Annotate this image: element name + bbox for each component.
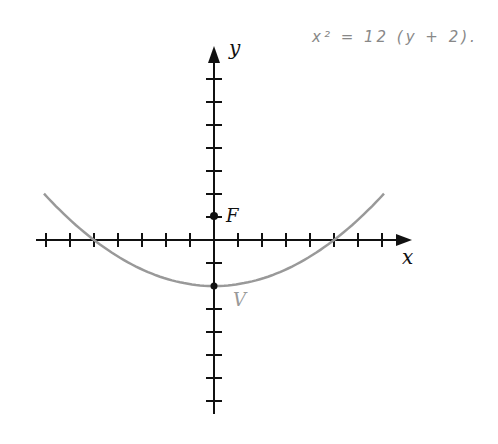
vertex-point [211,283,218,290]
parabola-diagram: x y F V [0,0,498,444]
focus-label: F [225,205,240,226]
y-axis-label: y [228,36,241,60]
y-axis-arrow-icon [208,46,220,63]
x-axis-label: x [402,245,413,269]
focus-point [210,212,218,220]
vertex-label: V [233,289,248,310]
